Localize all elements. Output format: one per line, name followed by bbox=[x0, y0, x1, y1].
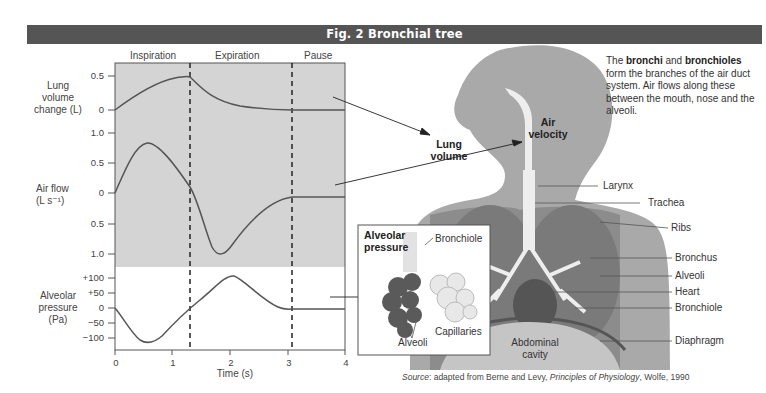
lung-volume-callout: Lung volume bbox=[424, 138, 474, 162]
alveolar-pressure-curve bbox=[115, 276, 345, 343]
label-bronchus: Bronchus bbox=[675, 252, 717, 263]
y-ticks bbox=[108, 76, 115, 338]
x-tick-label: 4 bbox=[342, 357, 350, 368]
chart-shaded-area bbox=[115, 63, 345, 267]
tick-label: −100 bbox=[64, 332, 104, 343]
tick-label: 0.5 bbox=[64, 157, 104, 168]
tick-label: 0 bbox=[64, 302, 104, 313]
tick-label: +100 bbox=[64, 272, 104, 283]
inset-label-bronchiole: Bronchiole bbox=[435, 233, 482, 244]
label-abdominal-cavity: Abdominal cavity bbox=[505, 337, 565, 361]
tick-label: 1.0 bbox=[64, 248, 104, 259]
label-trachea: Trachea bbox=[648, 197, 684, 208]
inset-label-alveoli: Alveoli bbox=[398, 337, 427, 348]
phase-label-inspiration: Inspiration bbox=[130, 50, 176, 61]
tick-label: −50 bbox=[64, 317, 104, 328]
inset-label-capillaries: Capillaries bbox=[435, 326, 482, 337]
x-axis-label: Time (s) bbox=[205, 368, 265, 380]
label-alveoli: Alveoli bbox=[675, 270, 704, 281]
x-tick-label: 2 bbox=[227, 357, 235, 368]
tick-label: 0 bbox=[64, 104, 104, 115]
description-text: The bronchi and bronchioles form the bra… bbox=[606, 55, 756, 118]
phase-label-pause: Pause bbox=[304, 50, 332, 61]
x-tick-label: 0 bbox=[112, 357, 120, 368]
tick-label: 0.5 bbox=[64, 218, 104, 229]
tick-label: 1.0 bbox=[64, 127, 104, 138]
tick-label: 0.5 bbox=[64, 70, 104, 81]
x-tick-label: 3 bbox=[285, 357, 293, 368]
tick-label: +50 bbox=[64, 287, 104, 298]
phase-label-expiration: Expiration bbox=[215, 50, 259, 61]
x-tick-label: 1 bbox=[169, 357, 177, 368]
label-heart: Heart bbox=[675, 286, 699, 297]
label-diaphragm: Diaphragm bbox=[675, 335, 724, 346]
air-velocity-callout: Air velocity bbox=[523, 116, 573, 140]
source-citation: Source: adapted from Berne and Levy, Pri… bbox=[402, 372, 689, 382]
label-bronchiole: Bronchiole bbox=[675, 302, 722, 313]
label-ribs: Ribs bbox=[671, 222, 691, 233]
label-larynx: Larynx bbox=[603, 180, 633, 191]
inset-title: Alveolar pressure bbox=[364, 229, 408, 253]
tick-label: 0 bbox=[64, 187, 104, 198]
